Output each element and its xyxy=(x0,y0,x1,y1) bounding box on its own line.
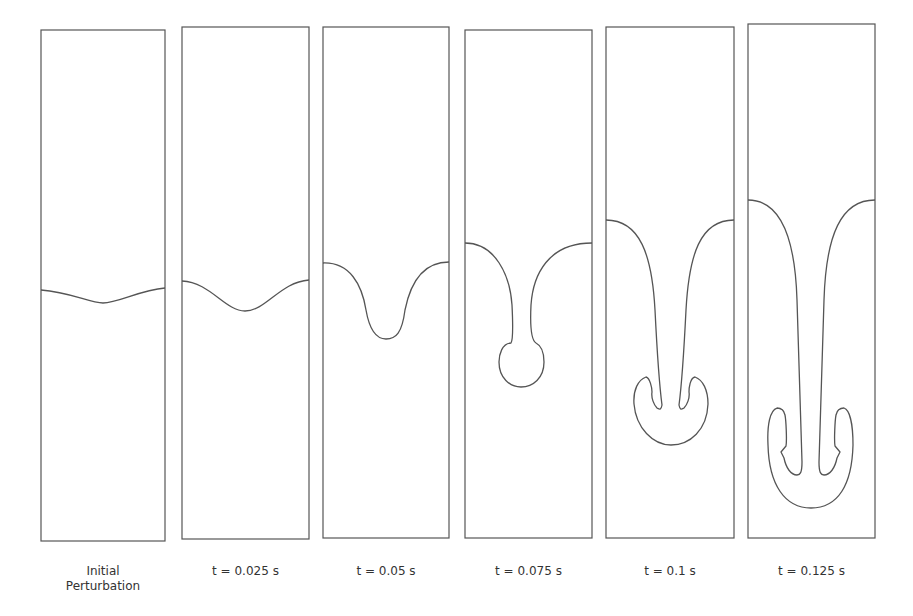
panel-5 xyxy=(606,27,734,538)
panel-frame xyxy=(323,27,449,538)
fluid-interface-curve xyxy=(182,280,309,311)
panel-label: t = 0.125 s xyxy=(728,564,895,579)
fluid-interface-curve xyxy=(748,200,875,508)
fluid-interface-curve xyxy=(41,288,165,303)
panel-2 xyxy=(182,27,309,539)
panel-frame xyxy=(606,27,734,538)
fluid-interface-curve xyxy=(323,262,449,339)
panel-4 xyxy=(465,30,592,538)
panel-frame xyxy=(465,30,592,538)
panel-label: Initial Perturbation xyxy=(21,564,185,594)
fluid-interface-curve xyxy=(465,243,592,387)
fluid-interface-curve xyxy=(606,220,734,445)
panel-1 xyxy=(41,30,165,541)
panel-frame xyxy=(41,30,165,541)
panel-frame xyxy=(182,27,309,539)
panel-6 xyxy=(748,24,875,538)
panel-3 xyxy=(323,27,449,538)
panel-frame xyxy=(748,24,875,538)
figure-canvas xyxy=(0,0,913,616)
